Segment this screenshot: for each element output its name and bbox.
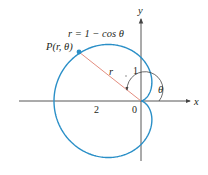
cardioid-diagram: r = 1 − cos θ P(r, θ) r θ x y 0 2 1 bbox=[0, 0, 208, 175]
point-label: P(r, θ) bbox=[45, 41, 73, 53]
radius-label: r bbox=[109, 66, 114, 77]
origin-label: 0 bbox=[132, 104, 137, 115]
point-p bbox=[77, 50, 82, 55]
y-tick-label-1: 1 bbox=[133, 65, 138, 76]
x-axis-label: x bbox=[193, 96, 199, 107]
dot-marker bbox=[125, 75, 126, 76]
y-axis-label: y bbox=[137, 5, 143, 16]
x-tick-label-2: 2 bbox=[94, 104, 99, 115]
equation-label: r = 1 − cos θ bbox=[68, 28, 124, 39]
angle-label: θ bbox=[158, 84, 163, 95]
